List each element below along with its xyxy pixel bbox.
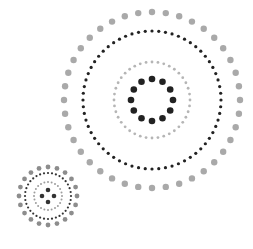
dot [114,87,117,90]
dot [159,115,166,122]
dot [109,175,115,181]
dot [24,191,26,193]
dot [47,181,49,183]
dot [57,185,59,187]
dot [187,110,190,113]
dot [188,105,191,108]
dot [124,72,127,75]
dot [163,10,169,16]
dot [130,164,133,167]
dot [62,213,64,215]
dot [107,152,110,155]
dot [25,203,27,205]
dot [22,177,27,182]
dot [22,211,27,216]
dot [128,97,135,104]
dot [39,217,41,219]
dot [17,194,22,199]
dot-ring [40,188,57,205]
dot [120,76,123,79]
dot [162,135,165,138]
dot [35,188,37,190]
dot [145,61,148,64]
dot [220,149,226,155]
dot [37,185,39,187]
dot [149,118,156,125]
dot [139,135,142,138]
dot [208,137,211,140]
dot [170,97,177,104]
dot [87,35,93,41]
dot [219,105,222,108]
dot [167,86,174,93]
dot [69,203,71,205]
dot [117,81,120,84]
dot [150,167,153,170]
dot [18,185,23,190]
dot [37,221,42,226]
dot [82,105,85,108]
dot [59,188,61,190]
dot [87,159,93,165]
dot [37,166,42,171]
dot [51,172,53,174]
dot [164,166,167,169]
dot [232,70,238,76]
dot [29,210,31,212]
dot [33,195,35,197]
dot [114,110,117,113]
dot [133,65,136,68]
dot [73,185,78,190]
dot [83,85,86,88]
dot [54,207,56,209]
dot [220,45,226,51]
dot [137,166,140,169]
dot [149,185,155,191]
dot [157,167,160,170]
dot [118,159,121,162]
dot [47,209,49,211]
dot [173,68,176,71]
dot [163,184,169,190]
dot [232,124,238,130]
dot [149,9,155,15]
dot [40,194,45,199]
dot [102,147,105,150]
dot [236,111,242,117]
dot [184,116,187,119]
dot [135,184,141,190]
dot [40,207,42,209]
dot [124,125,127,128]
dot [70,195,72,197]
dot [170,32,173,35]
dot [70,137,76,143]
dot [112,156,115,159]
dot [39,173,41,175]
dot [109,18,115,24]
dot-ring [113,61,192,140]
dot [177,72,180,75]
dot [84,118,87,121]
dot [87,72,90,75]
dot [37,205,39,207]
dot [177,162,180,165]
dot [97,26,103,32]
large-dotted-rings [61,9,243,191]
dot [40,183,42,185]
dot [120,121,123,124]
dot [78,45,84,51]
dot [58,175,60,177]
dot [69,211,74,216]
dot [188,93,191,96]
dot [170,164,173,167]
dot [43,209,45,211]
dot [63,217,68,222]
dot [43,218,45,220]
dot [204,142,207,145]
dot [62,111,68,117]
dot [128,129,131,132]
dot [27,183,29,185]
dot [51,218,53,220]
dot [65,124,71,130]
dot [57,205,59,207]
